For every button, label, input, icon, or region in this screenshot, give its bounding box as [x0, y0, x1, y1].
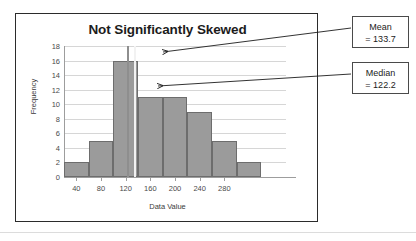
callout-mean-line2: = 133.7 — [353, 33, 408, 45]
mean-marker-line — [134, 46, 136, 177]
histogram-bar — [89, 141, 114, 177]
x-tick — [76, 177, 77, 181]
x-tick — [126, 177, 127, 181]
x-tick — [101, 177, 102, 181]
y-tick-label: 4 — [20, 143, 60, 152]
y-tick-label: 8 — [20, 114, 60, 123]
x-tick — [200, 177, 201, 181]
x-axis-title: Data Value — [16, 202, 319, 211]
y-tick-label: 6 — [20, 129, 60, 138]
callout-mean: Mean = 133.7 — [352, 16, 409, 48]
histogram-bars — [64, 46, 286, 177]
histogram-bar — [163, 97, 188, 177]
y-axis-title: Frequency — [29, 67, 38, 127]
callout-median-line1: Median — [353, 67, 408, 79]
x-tick-label: 280 — [207, 184, 241, 193]
callout-mean-line1: Mean — [353, 21, 408, 33]
y-axis-tick-labels: 024681012141618 — [16, 46, 60, 177]
y-tick-label: 2 — [20, 158, 60, 167]
x-axis-ticks — [64, 177, 296, 182]
callout-median: Median = 122.2 — [352, 62, 409, 94]
median-marker-line — [127, 46, 129, 177]
y-tick-label: 12 — [20, 85, 60, 94]
bottom-divider — [0, 232, 416, 233]
x-axis-tick-labels: 4080120160200240280 — [64, 184, 296, 196]
histogram-bar — [138, 97, 163, 177]
x-tick — [175, 177, 176, 181]
top-text-sliver — [0, 0, 416, 9]
y-tick-label: 10 — [20, 100, 60, 109]
callout-median-line2: = 122.2 — [353, 79, 408, 91]
y-tick-label: 14 — [20, 71, 60, 80]
y-tick-label: 0 — [20, 173, 60, 182]
histogram-bar — [237, 162, 262, 177]
histogram-bar — [212, 141, 237, 177]
y-tick-label: 16 — [20, 56, 60, 65]
histogram-bar — [64, 162, 89, 177]
histogram-bar — [187, 112, 212, 178]
x-tick — [224, 177, 225, 181]
plot-wrapper: 024681012141618 Frequency 40801201602002… — [16, 14, 319, 223]
figure-frame: Not Significantly Skewed 024681012141618… — [15, 13, 318, 222]
y-tick-label: 18 — [20, 42, 60, 51]
x-tick — [150, 177, 151, 181]
